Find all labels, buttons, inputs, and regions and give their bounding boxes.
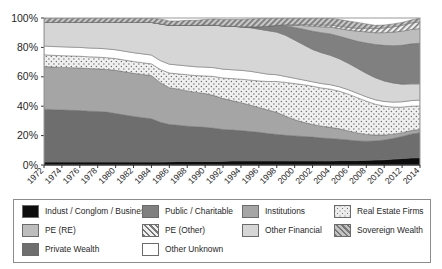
legend-label: Indust / Conglom / Business (45, 206, 149, 217)
swatch-pe-re (22, 224, 39, 237)
legend-item[interactable]: Real Estate Firms (334, 205, 424, 218)
legend-item[interactable]: Private Wealth (22, 243, 99, 256)
x-tick-label: 1998 (258, 165, 279, 186)
x-tick-label: 2014 (401, 165, 422, 186)
legend-label: Private Wealth (45, 244, 99, 255)
legend-label: Institutions (265, 206, 305, 217)
legend-label: Public / Charitable (165, 206, 233, 217)
x-tick-label: 1978 (79, 165, 100, 186)
legend-item[interactable]: Indust / Conglom / Business (22, 205, 149, 218)
x-tick-label: 1984 (132, 165, 153, 186)
swatch-institutions (242, 205, 259, 218)
x-axis-ticks: 1972197419761978198019821984198619881990… (25, 165, 422, 186)
swatch-pe-other (142, 224, 159, 237)
y-axis-ticks: 0%20%40%60%80%100% (11, 12, 44, 171)
x-tick-label: 2006 (329, 165, 350, 186)
x-tick-label: 1990 (186, 165, 207, 186)
x-tick-label: 1996 (240, 165, 261, 186)
swatch-private-wealth (22, 243, 39, 256)
x-tick-label: 1994 (222, 165, 243, 186)
x-tick-label: 2008 (347, 165, 368, 186)
x-tick-label: 2010 (365, 165, 386, 186)
legend-label: PE (RE) (45, 225, 76, 236)
y-tick-label: 40% (17, 100, 38, 112)
legend-label: Other Unknown (165, 244, 223, 255)
legend-item[interactable]: Other Unknown (142, 243, 223, 256)
legend-item[interactable]: PE (Other) (142, 224, 205, 237)
y-tick-label: 20% (17, 129, 38, 141)
legend-item[interactable]: PE (RE) (22, 224, 76, 237)
area-layers (44, 18, 420, 165)
chart-legend: Indust / Conglom / BusinessPE (RE)Privat… (13, 199, 431, 263)
x-tick-label: 1982 (114, 165, 135, 186)
x-tick-label: 2012 (383, 165, 404, 186)
x-tick-label: 2002 (293, 165, 314, 186)
swatch-other-unknown (142, 243, 159, 256)
swatch-real-estate-firms (334, 205, 351, 218)
legend-item[interactable]: Other Financial (242, 224, 322, 237)
legend-item[interactable]: Public / Charitable (142, 205, 233, 218)
legend-label: Other Financial (265, 225, 322, 236)
swatch-public-charitable (142, 205, 159, 218)
x-tick-label: 1992 (204, 165, 225, 186)
x-tick-label: 1976 (61, 165, 82, 186)
swatch-sovereign-wealth (334, 224, 351, 237)
y-tick-label: 100% (11, 12, 38, 24)
legend-label: Sovereign Wealth (357, 225, 423, 236)
legend-item[interactable]: Sovereign Wealth (334, 224, 423, 237)
swatch-indust-conglom-business (22, 205, 39, 218)
legend-label: Real Estate Firms (357, 206, 424, 217)
x-tick-label: 1974 (43, 165, 64, 186)
x-tick-label: 2000 (275, 165, 296, 186)
y-tick-label: 60% (17, 70, 38, 82)
x-tick-label: 1988 (168, 165, 189, 186)
legend-item[interactable]: Institutions (242, 205, 305, 218)
stacked-area-chart: 0%20%40%60%80%100% 197219741976197819801… (0, 0, 442, 196)
chart-canvas: 0%20%40%60%80%100% 197219741976197819801… (0, 0, 442, 196)
x-tick-label: 2004 (311, 165, 332, 186)
x-tick-label: 1980 (96, 165, 117, 186)
swatch-other-financial (242, 224, 259, 237)
y-tick-label: 80% (17, 41, 38, 53)
x-tick-label: 1986 (150, 165, 171, 186)
chart-page: 0%20%40%60%80%100% 197219741976197819801… (0, 0, 442, 269)
legend-label: PE (Other) (165, 225, 205, 236)
